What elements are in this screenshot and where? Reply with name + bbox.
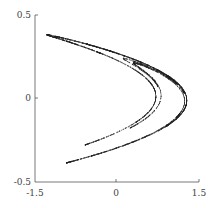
attractor-points xyxy=(47,35,187,163)
x-tick-right: 1.5 xyxy=(192,188,207,198)
y-tick-mid: 0 xyxy=(25,93,31,103)
y-tick-top: 0.5 xyxy=(17,10,32,20)
y-tick-bottom: -0.5 xyxy=(14,177,32,187)
x-tick-left: -1.5 xyxy=(26,188,44,198)
attractor-plot: 0.5 0 -0.5 -1.5 0 1.5 xyxy=(0,0,211,208)
x-tick-mid: 0 xyxy=(113,188,119,198)
